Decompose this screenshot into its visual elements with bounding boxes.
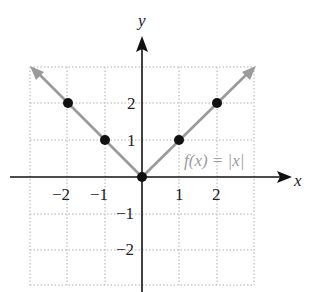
function-label: f(x) = |x| <box>184 151 244 170</box>
y-tick-1: 1 <box>127 131 136 150</box>
x-tick-1: 1 <box>175 185 184 204</box>
x-tick-m1: −1 <box>90 185 108 204</box>
y-tick-m2: −2 <box>116 240 134 259</box>
abs-value-graph: y x −2 −1 1 2 2 1 −1 −2 f(x) = |x| <box>0 0 310 292</box>
y-axis-label: y <box>136 11 146 30</box>
x-tick-2: 2 <box>212 185 221 204</box>
x-axis-label: x <box>293 171 302 190</box>
y-tick-2: 2 <box>127 94 136 113</box>
x-tick-m2: −2 <box>52 185 70 204</box>
y-tick-m1: −1 <box>116 204 134 223</box>
